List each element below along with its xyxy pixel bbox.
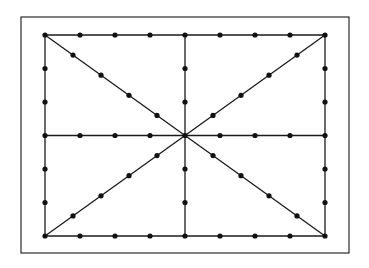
grid-dot [322, 133, 327, 138]
grid-dot [98, 73, 103, 78]
grid-dot [147, 32, 152, 37]
grid-dot [77, 233, 82, 238]
grid-dot [217, 233, 222, 238]
grid-dot [112, 32, 117, 37]
grid-dot [266, 73, 271, 78]
grid-dot [70, 213, 75, 218]
grid-dot [182, 99, 187, 104]
grid-dot [322, 233, 327, 238]
grid-dot [210, 153, 215, 158]
grid-dot [182, 133, 187, 138]
grid-dot [266, 193, 271, 198]
grid-dot [182, 32, 187, 37]
grid-dot [42, 99, 47, 104]
grid-dot [322, 166, 327, 171]
grid-dot [112, 133, 117, 138]
grid-dot [42, 133, 47, 138]
grid-dot [42, 166, 47, 171]
grid-dot [182, 200, 187, 205]
grid-dot [322, 200, 327, 205]
grid-dot [147, 233, 152, 238]
grid-dot [77, 32, 82, 37]
grid-dot [42, 66, 47, 71]
grid-dot [70, 53, 75, 58]
grid-dot [98, 193, 103, 198]
grid-dot [154, 153, 159, 158]
grid-dot [287, 32, 292, 37]
grid-dot [154, 113, 159, 118]
grid-dot [77, 133, 82, 138]
grid-dot [322, 99, 327, 104]
grid-dot [182, 166, 187, 171]
grid-dot [252, 133, 257, 138]
grid-dot [182, 66, 187, 71]
grid-dot [42, 200, 47, 205]
grid-dot [252, 233, 257, 238]
grid-dot [147, 133, 152, 138]
grid-dot [287, 133, 292, 138]
grid-dot [42, 233, 47, 238]
grid-dot [294, 53, 299, 58]
peg-grid-diagram [0, 0, 369, 268]
grid-dot [42, 32, 47, 37]
grid-dot [322, 32, 327, 37]
grid-dot [182, 233, 187, 238]
grid-dot [210, 113, 215, 118]
grid-dot [112, 233, 117, 238]
grid-dot [238, 173, 243, 178]
grid-dot [217, 32, 222, 37]
grid-dot [287, 233, 292, 238]
grid-dot [252, 32, 257, 37]
grid-dot [238, 93, 243, 98]
grid-dot [322, 66, 327, 71]
grid-dot [294, 213, 299, 218]
grid-dot [126, 93, 131, 98]
grid-dot [126, 173, 131, 178]
grid-dot [217, 133, 222, 138]
